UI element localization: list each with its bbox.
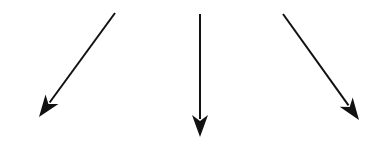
arrowhead-icon — [39, 95, 58, 117]
arrowhead-icon — [340, 97, 359, 120]
diagram-canvas — [0, 0, 377, 147]
arrow-center — [192, 14, 208, 137]
arrow-shaft — [50, 13, 115, 102]
arrow-right — [283, 14, 359, 120]
arrow-left — [39, 13, 115, 117]
arrow-shaft — [283, 14, 349, 105]
